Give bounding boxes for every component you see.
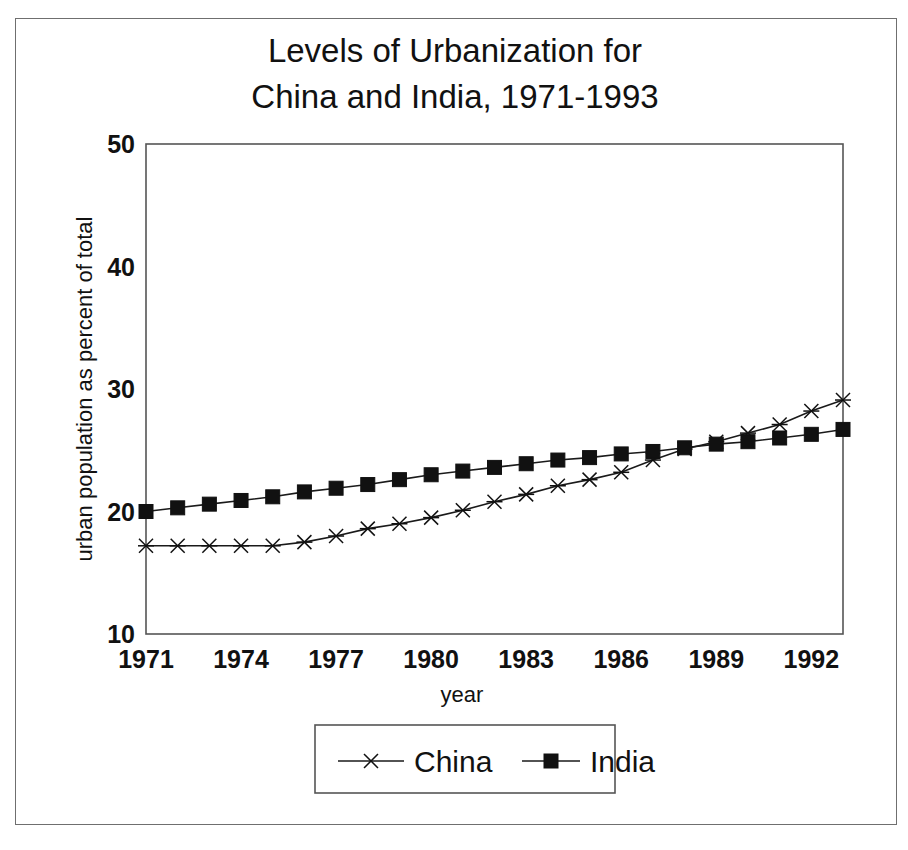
x-tick-label-1971: 1971 (118, 645, 174, 673)
data-point-india-1977 (329, 481, 343, 495)
figure-root: Levels of Urbanization for China and Ind… (0, 0, 908, 850)
data-point-india-1975 (266, 490, 280, 504)
y-axis-title: urban population as percent of total (72, 217, 97, 562)
x-tick-label-1974: 1974 (213, 645, 269, 673)
urbanization-line-chart: Levels of Urbanization for China and Ind… (0, 0, 908, 850)
chart-title-line-1: Levels of Urbanization for (268, 32, 642, 69)
chart-title-line-2: China and India, 1971-1993 (251, 78, 658, 115)
x-axis-tick-labels: 19711974197719801983198619891992 (118, 645, 839, 673)
plot-area-frame (146, 144, 843, 634)
y-axis-tick-labels: 1020304050 (107, 130, 135, 648)
data-point-india-1992 (804, 427, 818, 441)
data-point-india-1971 (139, 505, 153, 519)
legend-label-india: India (590, 745, 655, 778)
data-point-india-1989 (709, 437, 723, 451)
x-tick-label-1983: 1983 (498, 645, 554, 673)
data-point-india-1986 (614, 447, 628, 461)
data-point-india-1985 (583, 451, 597, 465)
x-tick-label-1992: 1992 (784, 645, 840, 673)
x-tick-label-1986: 1986 (593, 645, 649, 673)
data-point-india-1990 (741, 435, 755, 449)
legend-square-marker-icon (544, 754, 558, 768)
x-axis-title: year (441, 682, 484, 707)
y-tick-label-10: 10 (107, 620, 135, 648)
data-point-india-1988 (678, 441, 692, 455)
legend-label-china: China (414, 745, 493, 778)
data-point-india-1983 (519, 457, 533, 471)
data-point-india-1981 (456, 464, 470, 478)
data-point-india-1972 (171, 501, 185, 515)
data-point-india-1979 (392, 473, 406, 487)
y-tick-label-50: 50 (107, 130, 135, 158)
data-point-india-1991 (773, 431, 787, 445)
y-tick-label-20: 20 (107, 498, 135, 526)
y-tick-label-30: 30 (107, 375, 135, 403)
data-point-india-1982 (488, 460, 502, 474)
x-tick-label-1977: 1977 (308, 645, 364, 673)
data-point-india-1993 (836, 422, 850, 436)
data-point-india-1974 (234, 493, 248, 507)
data-point-india-1978 (361, 478, 375, 492)
data-point-india-1987 (646, 444, 660, 458)
data-point-india-1973 (202, 497, 216, 511)
data-point-india-1980 (424, 468, 438, 482)
y-tick-label-40: 40 (107, 253, 135, 281)
data-point-india-1976 (297, 485, 311, 499)
data-point-india-1984 (551, 453, 565, 467)
x-tick-label-1989: 1989 (688, 645, 744, 673)
x-tick-label-1980: 1980 (403, 645, 459, 673)
